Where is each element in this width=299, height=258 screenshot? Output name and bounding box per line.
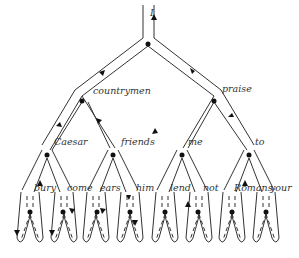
label-lend: lend: [170, 183, 191, 193]
label-bury: bury: [34, 183, 56, 193]
label-romans: Romans: [234, 183, 273, 193]
label-come: come: [67, 183, 93, 193]
label-me: me: [188, 137, 203, 147]
label-countrymen: countrymen: [93, 86, 151, 96]
edge-root-countrymen: [75, 38, 143, 90]
node-root: [146, 42, 151, 47]
label-friends: friends: [121, 137, 155, 147]
label-caesar: Caesar: [54, 137, 88, 147]
node-countrymen: [80, 99, 85, 104]
label-ears: ears: [100, 183, 121, 193]
label-him: him: [136, 183, 154, 193]
label-not: not: [203, 183, 219, 193]
node-praise: [212, 99, 217, 104]
label-praise: praise: [222, 84, 252, 94]
tree-diagram: [0, 0, 299, 258]
label-your: your: [270, 183, 292, 193]
label-to: to: [255, 137, 265, 147]
label-root: I: [150, 8, 154, 18]
